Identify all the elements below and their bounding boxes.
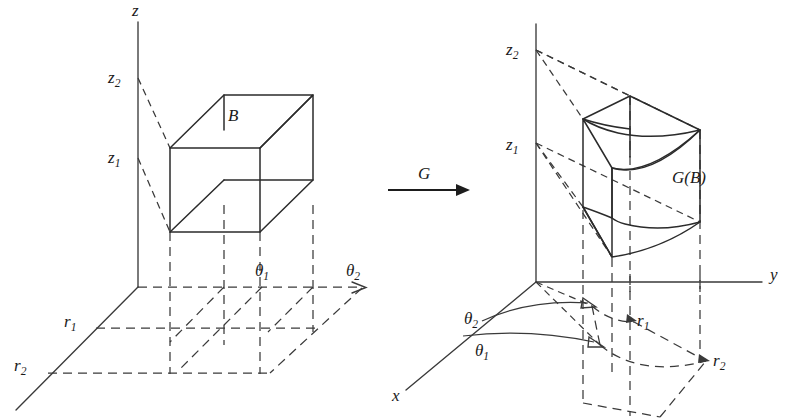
left-z1-connector — [138, 158, 170, 232]
left-tick-label-theta1: θ1 — [255, 261, 269, 282]
right-tick-label-z2: z2 — [505, 40, 519, 61]
wedge-lower-arc — [583, 207, 612, 218]
map-arrow-label-G: G — [418, 164, 430, 183]
box-label-B: B — [228, 106, 239, 125]
wedge-label-GB: G(B) — [672, 168, 706, 187]
box-right-face — [260, 95, 313, 232]
right-tick-label-z1: z1 — [505, 135, 518, 156]
wedge-bottom-face — [583, 207, 700, 257]
right-z2-connector-c — [536, 50, 583, 119]
coordinate-transformation-diagram: B z z2 z1 r1 r2 θ1 θ2 G — [0, 0, 789, 419]
left-tick-label-z2: z2 — [107, 68, 121, 89]
right-x-axis — [406, 282, 536, 390]
right-tick-label-theta2: θ2 — [464, 309, 478, 330]
figure-root: B z z2 z1 r1 r2 θ1 θ2 G — [0, 0, 789, 419]
base-sector-outer-arc — [600, 345, 706, 367]
r2-marker-arrowhead — [698, 354, 710, 363]
left-base-grid-theta-c — [268, 287, 313, 332]
left-z2-connector — [138, 78, 170, 148]
left-r-axis — [16, 287, 138, 410]
left-tick-label-r2: r2 — [14, 356, 27, 377]
theta1-ray — [536, 282, 600, 345]
base-extra-line-b — [583, 403, 660, 417]
right-tick-label-theta1: θ1 — [475, 341, 489, 362]
left-tick-label-z1: z1 — [107, 148, 120, 169]
right-tick-label-r2: r2 — [713, 351, 726, 372]
right-tick-label-r1: r1 — [637, 311, 649, 332]
left-tick-label-theta2: θ2 — [346, 261, 360, 282]
left-base-grid-theta-d — [270, 288, 362, 373]
right-z1-connector-b — [536, 143, 612, 257]
base-extra-line-c — [660, 361, 706, 417]
box-interior-edge-diagonal — [170, 180, 224, 232]
wedge-top-face — [583, 96, 700, 136]
right-x-axis-label: x — [391, 386, 400, 405]
box-top-face — [170, 95, 313, 148]
right-panel: G(B) y x z2 z1 r1 r2 θ2 θ1 — [391, 24, 778, 417]
right-y-axis-label: y — [768, 265, 778, 284]
left-base-grid-theta-b — [178, 287, 262, 371]
right-z1-connector-a — [536, 143, 583, 207]
r1-marker-arrowhead — [626, 314, 637, 323]
left-tick-label-r1: r1 — [64, 312, 76, 333]
left-z-axis-label: z — [131, 1, 139, 20]
map-arrow-group: G — [388, 164, 470, 196]
left-panel: B z z2 z1 r1 r2 θ1 θ2 — [14, 1, 366, 410]
wedge-top-inner-arc — [583, 119, 630, 129]
map-arrow-head — [456, 184, 470, 196]
